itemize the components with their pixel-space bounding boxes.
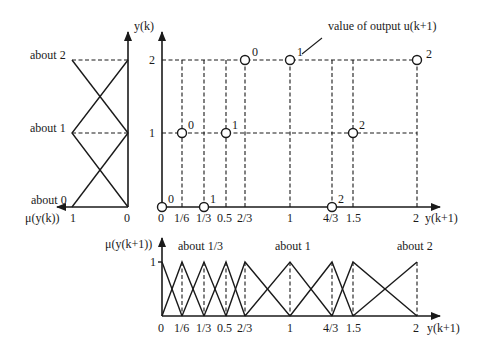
xtick-bottom: 0	[158, 321, 164, 335]
mf-1-5	[332, 262, 417, 316]
point-yk1-u0	[178, 129, 187, 138]
point-label: 0	[168, 192, 174, 206]
mf-2-3	[226, 262, 290, 316]
xtick: 0	[158, 211, 164, 225]
xtick: 4/3	[323, 211, 338, 225]
xtick-bottom: 0.5	[217, 321, 232, 335]
point-label: 2	[359, 118, 365, 132]
tick-mu-1: 1	[70, 211, 76, 225]
label-yk-axis: y(k)	[134, 19, 154, 33]
point-label: 2	[426, 47, 432, 61]
xtick-bottom: 4/3	[323, 321, 338, 335]
point-label: 0	[188, 118, 194, 132]
label-yk1-axis: y(k+1)	[425, 211, 458, 225]
xtick: 0.5	[217, 211, 232, 225]
point-yk1-u1	[222, 129, 231, 138]
label-about-2: about 2	[30, 48, 66, 62]
annotation-text: value of output u(k+1)	[328, 19, 436, 33]
left-membership-panel: about 2 about 1 about 0 μ(y(k)) 1 0 y(k)	[25, 19, 154, 225]
mf-1	[245, 262, 332, 316]
label-about-1-out: about 1	[275, 239, 311, 253]
mf-filler	[110, 37, 128, 60]
output-membership-panel: 1 μ(y(k+1)) about 1/3 about 1 about 2 0 …	[105, 237, 460, 335]
xtick: 2	[413, 211, 419, 225]
point-yk2-u2	[413, 56, 422, 65]
label-about-2-out: about 2	[397, 239, 433, 253]
rule-map-panel: 1 2 0 1 2 0 1 2 0 1 2 value of output u(…	[149, 19, 458, 225]
xtick-bottom: 2	[413, 321, 419, 335]
fuzzy-rule-diagram: about 2 about 1 about 0 μ(y(k)) 1 0 y(k)…	[0, 0, 486, 356]
xtick: 1	[287, 211, 293, 225]
xtick: 1.5	[346, 211, 361, 225]
point-label: 2	[338, 192, 344, 206]
point-yk2-u0	[241, 56, 250, 65]
xtick-bottom: 1.5	[346, 321, 361, 335]
point-label: 0	[252, 45, 258, 59]
xtick: 2/3	[237, 211, 252, 225]
label-yk1-axis-bottom: y(k+1)	[427, 321, 460, 335]
point-label: 1	[232, 118, 238, 132]
point-yk1-u2	[349, 129, 358, 138]
mf-0-5	[204, 262, 245, 316]
tick-mu-1-label: 1	[150, 255, 156, 269]
xtick-bottom: 1	[287, 321, 293, 335]
mf-4-3	[290, 262, 353, 316]
point-label: 1	[297, 45, 303, 59]
xtick: 1/6	[174, 211, 189, 225]
label-about-1-3: about 1/3	[178, 239, 223, 253]
xtick-bottom: 1/3	[196, 321, 211, 335]
tick-y-1: 1	[149, 126, 155, 140]
point-yk2-u1	[286, 56, 295, 65]
mf-1-6	[162, 262, 204, 316]
label-about-0: about 0	[31, 193, 67, 207]
label-about-1: about 1	[30, 121, 66, 135]
tick-y-2: 2	[149, 53, 155, 67]
xtick: 1/3	[196, 211, 211, 225]
label-mu-yk1: μ(y(k+1))	[105, 237, 152, 251]
label-mu-yk: μ(y(k))	[25, 211, 59, 225]
xtick-bottom: 1/6	[174, 321, 189, 335]
xtick-bottom: 2/3	[237, 321, 252, 335]
annotation-leader	[302, 38, 322, 54]
point-label: 1	[210, 192, 216, 206]
tick-mu-0: 0	[124, 211, 130, 225]
